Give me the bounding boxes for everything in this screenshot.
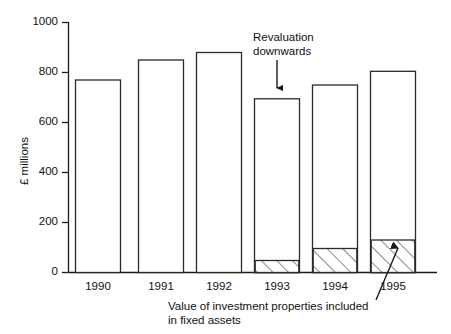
- revaluation-annotation-line1: Revaluation: [253, 30, 314, 44]
- x-tick-label-1995: 1995: [363, 280, 423, 293]
- bar-1992: [197, 53, 242, 273]
- investment-annotation-line2: in fixed assets: [168, 313, 241, 327]
- y-tick-label-0: 0: [12, 265, 58, 278]
- bar-1994: [313, 85, 358, 273]
- bar-chart: 1000 800 600 400 200 0 £ millions 1990 1…: [0, 0, 451, 334]
- x-tick-label-1993: 1993: [247, 280, 307, 293]
- hatch-1993: [255, 261, 299, 273]
- hatch-1995: [371, 240, 415, 273]
- y-tick-label-800: 800: [12, 65, 58, 78]
- investment-annotation-line1: Value of investment properties included: [168, 299, 369, 313]
- y-tick-label-200: 200: [12, 215, 58, 228]
- bar-1993: [255, 99, 300, 273]
- hatch-1994: [313, 249, 357, 273]
- bar-1990: [76, 80, 121, 273]
- bar-1991: [139, 60, 184, 273]
- x-tick-label-1990: 1990: [68, 280, 128, 293]
- x-tick-label-1991: 1991: [131, 280, 191, 293]
- revaluation-annotation-line2: downwards: [253, 44, 311, 58]
- y-tick-label-1000: 1000: [12, 15, 58, 28]
- y-tick-label-600: 600: [12, 115, 58, 128]
- bars-total: [76, 53, 416, 273]
- y-axis-title: £ millions: [18, 137, 31, 185]
- x-tick-label-1994: 1994: [305, 280, 365, 293]
- y-axis-ticks: [62, 23, 69, 273]
- x-tick-label-1992: 1992: [189, 280, 249, 293]
